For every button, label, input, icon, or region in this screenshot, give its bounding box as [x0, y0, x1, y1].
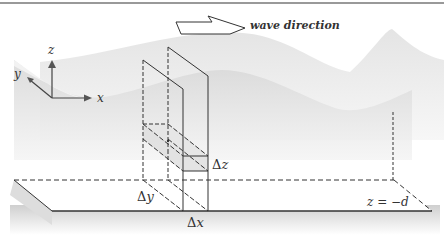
- delta-z-label: Δz: [212, 158, 228, 171]
- delta-y-var: y: [146, 189, 153, 204]
- delta-y-label: Δy: [137, 190, 154, 203]
- wave-control-volume-diagram: wave direction z y x Δz Δy Δx z = −d: [0, 0, 444, 241]
- delta-z-var: z: [221, 157, 228, 172]
- delta-z-symbol: Δ: [212, 157, 221, 172]
- x-axis-label: x: [97, 92, 104, 104]
- y-axis-label: y: [14, 68, 21, 80]
- delta-y-symbol: Δ: [137, 189, 146, 204]
- z-axis-label: z: [48, 44, 54, 56]
- wave-direction-label: wave direction: [250, 20, 340, 31]
- delta-x-label: Δx: [187, 216, 204, 229]
- delta-x-var: x: [196, 215, 203, 230]
- wave-direction-arrow-icon: [176, 16, 245, 34]
- bottom-depth-label: z = −d: [367, 196, 409, 208]
- delta-x-symbol: Δ: [187, 215, 196, 230]
